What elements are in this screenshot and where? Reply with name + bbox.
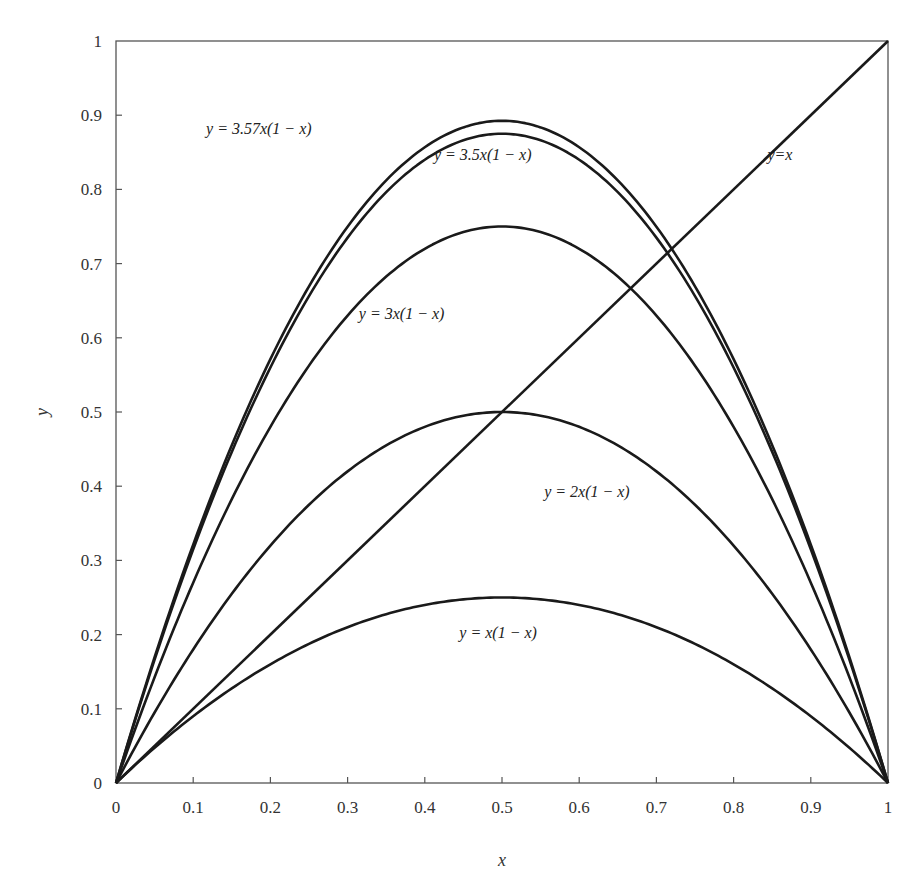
x-tick-label: 0.7 [646, 798, 668, 817]
curve-label: y = 3.5x(1 − x) [432, 146, 532, 164]
y-axis-title: y [32, 408, 52, 418]
y-tick-label: 0.6 [81, 329, 102, 348]
y-tick-label: 0.5 [81, 403, 102, 422]
curve-label: y=x [765, 146, 792, 164]
y-tick-label: 0.1 [81, 700, 102, 719]
curve-r-3_5 [116, 134, 888, 783]
y-tick-label: 0.2 [81, 626, 102, 645]
x-tick-label: 0.6 [569, 798, 590, 817]
curve-label: y = x(1 − x) [457, 624, 537, 642]
x-tick-label: 0.9 [800, 798, 821, 817]
curve-label: y = 3x(1 − x) [357, 305, 445, 323]
y-tick-label: 1 [94, 32, 103, 51]
y-tick-label: 0.7 [81, 255, 103, 274]
x-tick-label: 0.4 [414, 798, 436, 817]
x-tick-label: 0.3 [337, 798, 358, 817]
x-tick-label: 0 [112, 798, 121, 817]
x-tick-label: 0.1 [183, 798, 204, 817]
x-tick-label: 0.8 [723, 798, 744, 817]
y-tick-label: 0.4 [81, 477, 103, 496]
y-tick-label: 0.8 [81, 180, 102, 199]
y-tick-label: 0.3 [81, 551, 102, 570]
logistic-map-chart: 00.10.20.30.40.50.60.70.80.91 00.10.20.3… [0, 0, 923, 884]
y-tick-label: 0 [94, 774, 103, 793]
x-axis-title: x [497, 850, 506, 870]
curve-label: y = 2x(1 − x) [542, 483, 630, 501]
x-tick-label: 0.2 [260, 798, 281, 817]
curve-r-3 [116, 227, 888, 784]
y-tick-label: 0.9 [81, 106, 102, 125]
x-tick-label: 1 [884, 798, 893, 817]
x-tick-label: 0.5 [491, 798, 512, 817]
curve-label: y = 3.57x(1 − x) [204, 120, 312, 138]
